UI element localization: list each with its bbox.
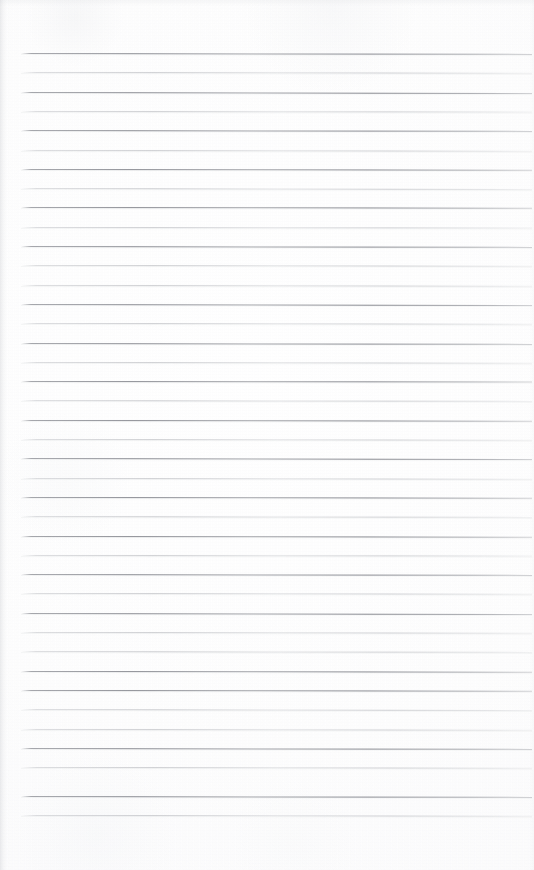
ruled-line [21,304,532,306]
ruled-line [21,613,532,615]
ruled-line [21,343,532,345]
ruled-line [21,729,532,731]
ruled-line [21,150,532,152]
ruled-line [21,555,532,557]
ruled-line [21,169,532,171]
ruled-line [21,362,532,364]
ruled-line [21,420,532,422]
ruled-line [21,207,532,209]
ruled-line [21,796,532,798]
ruled-line [21,381,532,383]
ruled-line [21,130,532,132]
ruled-line [21,574,532,576]
ruled-line [21,458,532,460]
ruled-line [21,671,532,673]
ruled-line [21,497,532,499]
ruled-line [21,227,532,229]
ruled-line [21,516,532,518]
ruled-line [21,593,532,595]
ruled-line [21,632,532,634]
ruled-line [21,111,532,113]
notebook-page [0,0,534,870]
ruled-line [21,53,532,55]
ruled-line [21,690,532,692]
ruled-line [21,246,532,248]
ruled-line [21,651,532,653]
ruled-line [21,265,532,267]
ruled-lines-layer [0,0,534,870]
ruled-line [21,285,532,287]
ruled-line [21,815,532,817]
ruled-line [21,709,532,711]
ruled-line [21,748,532,750]
ruled-line [21,536,532,538]
ruled-line [21,188,532,190]
ruled-line [21,323,532,325]
ruled-line [21,478,532,480]
ruled-line [21,92,532,94]
ruled-line [21,767,532,769]
ruled-line [21,72,532,74]
ruled-line [21,400,532,402]
ruled-line [21,439,532,441]
